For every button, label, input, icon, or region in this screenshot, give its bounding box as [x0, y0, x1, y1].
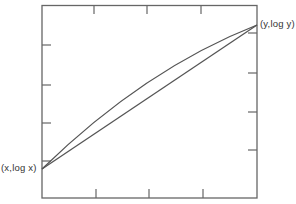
left-ticks: [42, 45, 51, 161]
bottom-ticks: [96, 189, 203, 198]
plot-frame: [42, 6, 257, 199]
chord-line: [42, 25, 257, 169]
right-ticks: [248, 33, 257, 150]
right-point-label: (y,log y): [260, 18, 295, 29]
top-ticks: [94, 6, 201, 15]
left-point-label: (x,log x): [1, 162, 37, 173]
diagram-canvas: [0, 0, 296, 204]
